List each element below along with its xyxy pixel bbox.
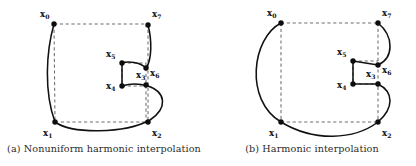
label-x6: x6 (382, 65, 391, 76)
node-x2 (145, 119, 150, 124)
label-x3: x3 (136, 70, 145, 81)
label-x4: x4 (106, 81, 115, 92)
label-x7: x7 (152, 9, 161, 20)
label-x2: x2 (382, 128, 391, 139)
figure-panel-a: x0 x1 x2 x3 x4 x5 x6 x7 (a) Nonuniform h… (0, 0, 208, 166)
diagram-a: x0 x1 x2 x3 x4 x5 x6 x7 (0, 0, 208, 145)
label-x6: x6 (150, 68, 159, 79)
diagram-b: x0 x1 x2 x3 x4 x5 x6 x7 (208, 0, 416, 145)
node-x3 (375, 81, 380, 86)
label-x2: x2 (152, 128, 161, 139)
figure-root: x0 x1 x2 x3 x4 x5 x6 x7 (a) Nonuniform h… (0, 0, 416, 166)
dashed-polygon-b (281, 23, 378, 122)
node-x3 (143, 82, 148, 87)
figure-panel-b: x0 x1 x2 x3 x4 x5 x6 x7 (b) Harmonic int… (208, 0, 416, 166)
label-x0: x0 (40, 9, 49, 20)
node-x5 (119, 60, 124, 65)
node-x2 (375, 119, 380, 124)
node-x0 (51, 21, 56, 26)
node-x1 (52, 119, 57, 124)
node-x5 (350, 58, 355, 63)
label-x7: x7 (382, 8, 391, 19)
node-x0 (278, 20, 283, 25)
label-x1: x1 (43, 128, 52, 139)
node-x1 (278, 119, 283, 124)
dashed-polygon-a (54, 24, 148, 122)
node-x4 (350, 81, 355, 86)
label-x5: x5 (106, 49, 115, 60)
label-x4: x4 (337, 80, 346, 91)
node-x6 (143, 65, 148, 70)
node-x7 (145, 22, 150, 27)
label-x3: x3 (366, 69, 375, 80)
label-x5: x5 (337, 47, 346, 58)
node-x7 (375, 20, 380, 25)
node-x4 (119, 83, 124, 88)
caption-b: (b) Harmonic interpolation (208, 143, 416, 154)
node-x6 (375, 62, 380, 67)
label-x0: x0 (267, 8, 276, 19)
interpolation-curve-b (256, 23, 390, 136)
caption-a: (a) Nonuniform harmonic interpolation (0, 143, 208, 154)
label-x1: x1 (269, 128, 278, 139)
